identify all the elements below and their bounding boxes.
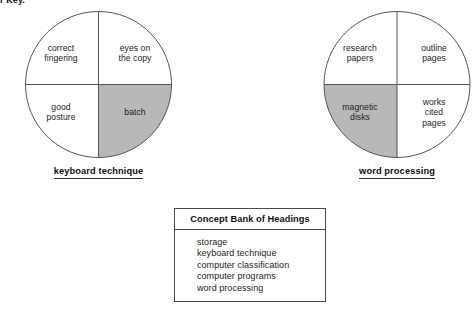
quadrant-label-bottom-right: workscitedpages [403,97,465,128]
list-item: word processing [197,283,325,294]
pie-diagram-word-processing: researchpapers outlinepages magneticdisk… [322,11,472,179]
list-item: storage [197,237,325,248]
quadrant-label-top-left: researchpapers [329,43,391,64]
list-item: keyboard technique [197,248,325,259]
circle-graphic: correctfingering eyes onthe copy goodpos… [22,11,175,158]
diagram-caption-text: keyboard technique [54,166,144,179]
list-item: computer classification [197,260,325,271]
list-item: computer programs [197,271,325,282]
quadrant-label-top-right: outlinepages [403,43,465,64]
pie-diagram-keyboard-technique: correctfingering eyes onthe copy goodpos… [22,11,175,179]
circle-graphic: researchpapers outlinepages magneticdisk… [322,11,472,158]
diagram-caption-text: word processing [359,166,435,179]
quadrant-fill-bottom-right [99,85,172,158]
quadrant-label-bottom-left: goodposture [30,102,92,123]
concept-bank-panel: Concept Bank of Headings storage keyboar… [174,208,326,302]
quadrant-label-bottom-right: batch [104,107,166,117]
diagram-caption: word processing [322,166,472,176]
concept-bank-list: storage keyboard technique computer clas… [175,230,325,300]
quadrant-label-top-right: eyes onthe copy [104,43,166,64]
diagram-caption: keyboard technique [22,166,175,176]
concept-bank-title: Concept Bank of Headings [175,209,325,230]
quadrant-label-top-left: correctfingering [30,43,92,64]
page-header-text: r Key. [0,0,25,5]
quadrant-label-bottom-left: magneticdisks [329,102,391,123]
